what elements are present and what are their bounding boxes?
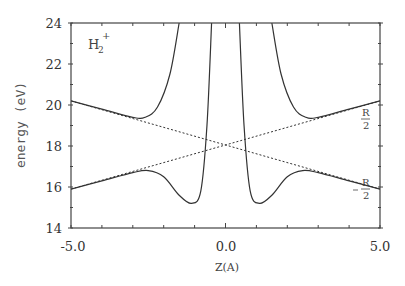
x-tick-0: 0.0 [216, 239, 237, 254]
x-tick-minus5: -5.0 [60, 239, 85, 254]
y-tick-24: 24 [45, 16, 62, 31]
x-axis-title: Z(A) [215, 261, 239, 274]
y-tick-labels: 24 22 20 18 16 14 [45, 16, 62, 236]
molecule-label-sup: + [102, 30, 110, 41]
svg-text:R: R [362, 177, 370, 188]
axes [68, 23, 383, 228]
svg-text:R: R [362, 107, 370, 118]
adiabatic-curve-3 [239, 23, 380, 203]
x-tick-labels: -5.0 0.0 5.0 [60, 239, 390, 254]
y-axis-title: energy (eV) [13, 82, 28, 168]
y-tick-18: 18 [45, 139, 62, 154]
adiabatic-curve-1 [272, 23, 380, 118]
y-tick-14: 14 [45, 221, 62, 236]
chart-canvas: 24 22 20 18 16 14 -5.0 0.0 5.0 Z(A) ener… [0, 0, 405, 286]
plot-area [71, 23, 380, 203]
molecule-label: H 2 + [88, 30, 110, 55]
svg-text:2: 2 [363, 120, 369, 131]
y-tick-16: 16 [45, 180, 62, 195]
label-minus-r-half: R2 [353, 177, 370, 201]
molecule-label-sub: 2 [98, 45, 104, 55]
y-tick-20: 20 [45, 98, 62, 113]
plot-frame [71, 23, 380, 228]
x-tick-5: 5.0 [370, 239, 391, 254]
y-tick-22: 22 [45, 57, 62, 72]
label-r-half: R2 [361, 107, 370, 131]
svg-text:2: 2 [363, 190, 369, 201]
